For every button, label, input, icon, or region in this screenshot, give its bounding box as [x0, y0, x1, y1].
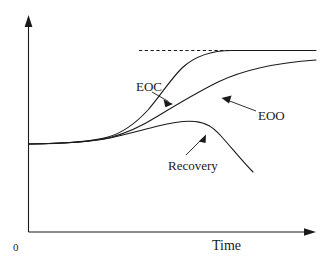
eoo-leader-line [227, 100, 256, 111]
label-recovery: Recovery [168, 158, 218, 173]
plot-area: EOC EOO Recovery Time 0 [0, 0, 329, 263]
x-axis-label: Time [212, 238, 241, 253]
label-eoc: EOC [136, 79, 162, 94]
x-axis-arrow-icon [304, 228, 316, 236]
recovery-leader-arrow-icon [199, 135, 206, 144]
curve-recovery [29, 121, 253, 172]
eoc-leader-arrow-icon [164, 99, 174, 107]
label-eoo: EOO [258, 108, 285, 123]
eoo-leader-arrow-icon [222, 96, 232, 104]
figure-container: EOC EOO Recovery Time 0 [0, 0, 329, 263]
origin-label: 0 [13, 241, 19, 253]
y-axis-arrow-icon [25, 15, 33, 27]
curve-eoo [29, 60, 316, 144]
curve-eoc [29, 51, 316, 145]
